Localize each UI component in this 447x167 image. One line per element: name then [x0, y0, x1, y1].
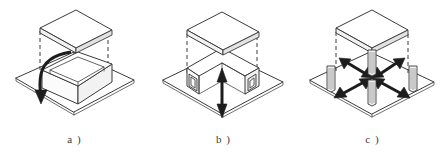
panel-c-label: c ) [298, 132, 447, 146]
post-left-c [327, 66, 335, 92]
panel-a-label: a ) [0, 132, 149, 146]
panel-b: b ) [149, 0, 298, 167]
panel-b-label: b ) [149, 132, 298, 146]
panel-c-drawing [298, 0, 447, 140]
lid-a [40, 10, 112, 53]
lid-b [187, 12, 259, 55]
panel-c: c ) [298, 0, 447, 167]
vertical-double-arrow-b[interactable] [217, 68, 227, 118]
lid-c [336, 10, 408, 53]
panel-b-drawing [149, 0, 298, 140]
panel-a-drawing [0, 0, 149, 140]
figure-root: a ) [0, 0, 447, 167]
radial-arrow-se-c[interactable] [372, 78, 410, 98]
post-front-center-c [368, 80, 376, 106]
panel-a: a ) [0, 0, 149, 167]
post-back-center-c [368, 50, 376, 76]
radial-arrow-sw-c[interactable] [334, 78, 372, 98]
post-right-c [409, 66, 417, 92]
